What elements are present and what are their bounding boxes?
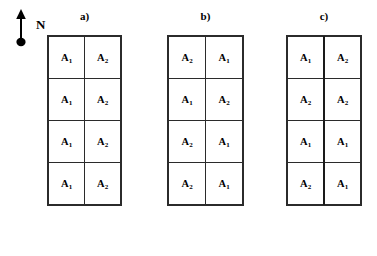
table-row: A2 A1 [169, 37, 243, 79]
cell-a-r2c1: A1 [49, 79, 85, 121]
cell-c-r3c2: A1 [324, 121, 361, 163]
panel-c: c) A1 A2 A2 A2 A1 A1 A2 A1 [286, 8, 362, 206]
cell-c-r3c1: A1 [288, 121, 325, 163]
panel-b-label: b) [167, 8, 244, 24]
cell-c-r4c1: A2 [288, 163, 325, 205]
cell-c-r2c2: A2 [324, 79, 361, 121]
panel-b: b) A2 A1 A1 A2 A2 A1 A2 A1 [167, 8, 244, 206]
panel-a-table: A1 A2 A1 A2 A1 A2 A1 A2 [48, 36, 121, 205]
cell-b-r4c2: A1 [206, 163, 243, 205]
cell-b-r2c1: A1 [169, 79, 206, 121]
cell-c-r1c1: A1 [288, 37, 325, 79]
panel-c-label: c) [286, 8, 362, 24]
table-row: A2 A1 [288, 163, 361, 205]
cell-b-r3c2: A1 [206, 121, 243, 163]
table-row: A1 A2 [49, 79, 121, 121]
panel-a: a) A1 A2 A1 A2 A1 A2 A1 A2 [47, 8, 122, 206]
cell-c-r1c2: A2 [324, 37, 361, 79]
cell-b-r3c1: A2 [169, 121, 206, 163]
table-row: A1 A1 [288, 121, 361, 163]
table-row: A2 A2 [288, 79, 361, 121]
panel-c-grid: A1 A2 A2 A2 A1 A1 A2 A1 [286, 35, 362, 206]
cell-b-r2c2: A2 [206, 79, 243, 121]
north-label: N [36, 18, 45, 31]
cell-a-r1c1: A1 [49, 37, 85, 79]
cell-a-r3c2: A2 [85, 121, 121, 163]
panel-b-table: A2 A1 A1 A2 A2 A1 A2 A1 [168, 36, 243, 205]
table-row: A1 A2 [49, 121, 121, 163]
cell-c-r2c1: A2 [288, 79, 325, 121]
table-row: A2 A1 [169, 163, 243, 205]
cell-a-r1c2: A2 [85, 37, 121, 79]
table-row: A1 A2 [49, 37, 121, 79]
cell-c-r4c2: A1 [324, 163, 361, 205]
cell-b-r1c2: A1 [206, 37, 243, 79]
cell-b-r4c1: A2 [169, 163, 206, 205]
panel-a-label: a) [47, 8, 122, 24]
table-row: A2 A1 [169, 121, 243, 163]
table-row: A1 A2 [49, 163, 121, 205]
panel-a-grid: A1 A2 A1 A2 A1 A2 A1 A2 [47, 35, 122, 206]
cell-a-r3c1: A1 [49, 121, 85, 163]
table-row: A1 A2 [169, 79, 243, 121]
panel-b-grid: A2 A1 A1 A2 A2 A1 A2 A1 [167, 35, 244, 206]
table-row: A1 A2 [288, 37, 361, 79]
cell-a-r4c1: A1 [49, 163, 85, 205]
cell-a-r4c2: A2 [85, 163, 121, 205]
panel-c-table: A1 A2 A2 A2 A1 A1 A2 A1 [287, 36, 361, 205]
cell-a-r2c2: A2 [85, 79, 121, 121]
cell-b-r1c1: A2 [169, 37, 206, 79]
